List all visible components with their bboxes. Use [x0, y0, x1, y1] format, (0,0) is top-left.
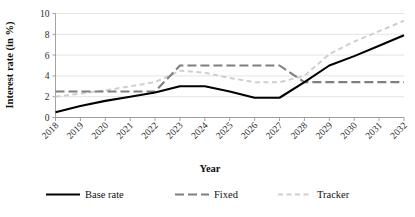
- x-tick-label-2031: 2031: [364, 120, 385, 141]
- legend-item-fixed[interactable]: Fixed: [175, 189, 239, 200]
- chart-legend: Base rateFixedTracker: [46, 189, 350, 200]
- y-tick-label-0: 0: [45, 113, 50, 123]
- y-tick-label-8: 8: [45, 30, 50, 40]
- x-tick-label-2027: 2027: [264, 120, 285, 141]
- legend-item-tracker[interactable]: Tracker: [278, 189, 350, 200]
- x-tick-label-2024: 2024: [189, 120, 210, 141]
- x-tick-label-2032: 2032: [388, 120, 409, 141]
- interest-rate-line-chart: 0246810 20182019202020212022202320242025…: [0, 0, 415, 217]
- legend-label-base-rate: Base rate: [85, 189, 124, 200]
- x-tick-labels-group: 2018201920202021202220232024202520262027…: [40, 120, 409, 141]
- x-tick-label-2029: 2029: [314, 120, 335, 141]
- x-tick-label-2023: 2023: [164, 120, 185, 141]
- legend-item-base-rate[interactable]: Base rate: [46, 189, 124, 200]
- chart-canvas: 0246810 20182019202020212022202320242025…: [0, 0, 415, 217]
- y-tick-labels-group: 0246810: [40, 9, 50, 123]
- y-tick-label-2: 2: [45, 92, 50, 102]
- x-tick-label-2021: 2021: [115, 120, 136, 141]
- x-tick-label-2022: 2022: [139, 120, 160, 141]
- x-tick-label-2026: 2026: [239, 120, 260, 141]
- series-line-base-rate: [56, 35, 405, 112]
- series-line-tracker: [56, 21, 405, 97]
- x-tick-label-2018: 2018: [40, 120, 61, 141]
- x-axis-title: Year: [200, 163, 221, 174]
- legend-label-fixed: Fixed: [214, 189, 239, 200]
- legend-label-tracker: Tracker: [317, 189, 350, 200]
- y-axis-title: Interest rate (in %): [4, 21, 16, 108]
- y-tick-label-4: 4: [45, 71, 50, 81]
- y-tick-label-6: 6: [45, 51, 50, 61]
- x-tick-label-2019: 2019: [65, 120, 86, 141]
- x-tick-label-2030: 2030: [339, 120, 360, 141]
- x-tick-label-2028: 2028: [289, 120, 310, 141]
- y-tick-marks-group: [53, 14, 56, 118]
- y-tick-label-10: 10: [40, 9, 50, 19]
- x-tick-label-2020: 2020: [90, 120, 111, 141]
- x-tick-label-2025: 2025: [214, 120, 235, 141]
